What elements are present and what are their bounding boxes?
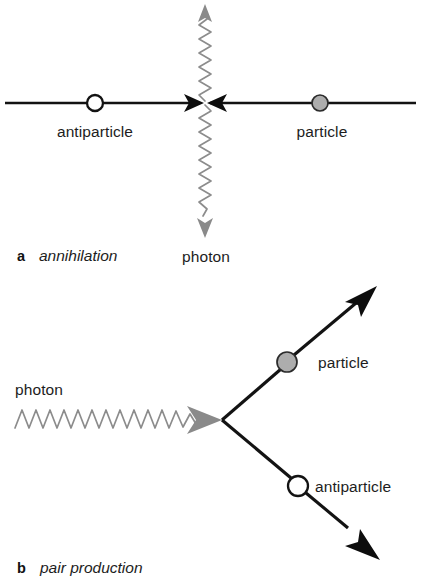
photon-label-a: photon [182,248,230,265]
antiparticle-node-b [288,476,308,496]
caption-letter-a: a [17,248,26,264]
photon-arrowhead-up-a [198,4,212,22]
caption-text-a: annihilation [39,247,117,264]
photon-label-b: photon [15,381,63,398]
antiparticle-label-a: antiparticle [57,123,133,140]
antiparticle-node-a [87,95,103,111]
photon-arrowhead-down-a [197,218,213,238]
panel-a-group: antiparticle particle photon a annihilat… [5,4,416,265]
particle-line-lower-b [222,369,281,420]
photon-wave-in-b [15,410,196,428]
figure-root: antiparticle particle photon a annihilat… [0,0,421,582]
photon-arrowhead-b [187,406,222,434]
antiparticle-line-upper-b [222,420,291,478]
photon-wave-down-a [199,105,211,216]
antiparticle-line-lower-b [306,493,348,528]
antiparticle-arrowhead-b [345,529,380,560]
particle-arrowhead-b [345,286,377,317]
particle-node-a [312,95,328,111]
particle-label-a: particle [297,123,348,140]
particle-line-upper-b [294,298,362,355]
panel-b-group: photon particle antiparticle b pair prod… [15,286,391,576]
particle-node-b [277,352,297,372]
particle-label-b: particle [318,354,369,371]
feynman-diagram-canvas: antiparticle particle photon a annihilat… [0,0,421,582]
antiparticle-label-b: antiparticle [315,478,391,495]
caption-text-b: pair production [39,559,143,576]
photon-wave-up-a [199,19,211,101]
caption-letter-b: b [17,560,26,576]
